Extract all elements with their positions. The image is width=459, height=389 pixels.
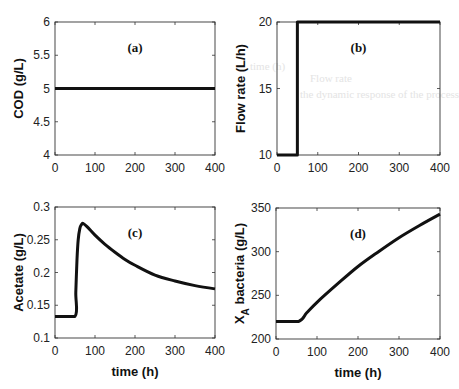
y-tick-label: 5.5 xyxy=(33,48,50,62)
panel-label: (a) xyxy=(127,40,142,55)
y-tick-label: 200 xyxy=(251,332,271,346)
x-tick-label: 100 xyxy=(85,161,105,175)
y-tick-label: 250 xyxy=(251,288,271,302)
x-tick-label: 400 xyxy=(430,345,450,359)
x-tick-label: 300 xyxy=(389,345,409,359)
x-tick-label: 400 xyxy=(205,344,225,358)
y-axis-label: XA bacteria (g/L) xyxy=(232,223,251,324)
y-tick-label: 0.25 xyxy=(27,233,51,247)
y-tick-label: 4.5 xyxy=(33,115,50,129)
x-tick-label: 0 xyxy=(274,161,281,175)
x-tick-label: 100 xyxy=(308,161,328,175)
chart-panel-d: 0100200300400200250300350(d)XA bacteria … xyxy=(232,201,450,380)
panel-label: (d) xyxy=(350,226,366,241)
y-tick-label: 300 xyxy=(251,245,271,259)
y-tick-label: 0.2 xyxy=(33,266,50,280)
x-tick-label: 300 xyxy=(165,344,185,358)
x-tick-label: 400 xyxy=(205,161,225,175)
y-tick-label: 350 xyxy=(251,201,271,215)
x-axis-label: time (h) xyxy=(335,365,382,380)
panel-label: (b) xyxy=(351,40,367,55)
x-axis-label: time (h) xyxy=(112,364,159,379)
x-tick-label: 200 xyxy=(348,345,368,359)
y-axis-label: Flow rate (L/h) xyxy=(233,44,248,133)
chart-panel-c: 01002003004000.10.150.20.250.3(c)Acetate… xyxy=(11,200,225,379)
x-tick-label: 0 xyxy=(273,345,280,359)
x-tick-label: 200 xyxy=(348,161,368,175)
y-axis-label: COD (g/L) xyxy=(11,58,26,119)
y-axis-label: Acetate (g/L) xyxy=(11,233,26,312)
y-tick-label: 15 xyxy=(259,82,273,96)
y-tick-label: 5 xyxy=(43,82,50,96)
x-tick-label: 400 xyxy=(430,161,450,175)
chart-panel-a: 010020030040044.555.56(a)COD (g/L) xyxy=(11,15,225,175)
x-tick-label: 100 xyxy=(307,345,327,359)
y-tick-label: 0.3 xyxy=(33,200,50,214)
y-tick-label: 10 xyxy=(259,148,273,162)
x-tick-label: 0 xyxy=(52,344,59,358)
y-tick-label: 4 xyxy=(43,148,50,162)
x-tick-label: 300 xyxy=(389,161,409,175)
y-tick-label: 0.1 xyxy=(33,331,50,345)
x-tick-label: 300 xyxy=(165,161,185,175)
x-tick-label: 100 xyxy=(85,344,105,358)
x-tick-label: 200 xyxy=(125,344,145,358)
y-tick-label: 0.15 xyxy=(27,298,51,312)
chart-panel-b: 0100200300400101520(b)Flow rate (L/h) xyxy=(233,15,450,175)
y-tick-label: 6 xyxy=(43,15,50,29)
x-tick-label: 200 xyxy=(125,161,145,175)
x-tick-label: 0 xyxy=(52,161,59,175)
panel-label: (c) xyxy=(128,225,142,240)
figure: 010020030040044.555.56(a)COD (g/L) 01002… xyxy=(0,0,459,389)
y-tick-label: 20 xyxy=(259,15,273,29)
